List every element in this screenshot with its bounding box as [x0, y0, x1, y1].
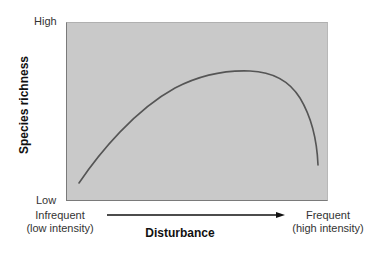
x-tick-right-line1: Frequent [286, 209, 370, 222]
y-axis-label: Species richness [17, 45, 31, 165]
x-tick-right: Frequent (high intensity) [286, 209, 370, 235]
x-axis-arrowhead-icon [276, 212, 285, 218]
x-tick-left: Infrequent (low intensity) [18, 209, 102, 235]
x-axis-label: Disturbance [130, 226, 230, 240]
x-tick-left-line2: (low intensity) [18, 222, 102, 235]
x-tick-right-line2: (high intensity) [286, 222, 370, 235]
y-tick-high: High [34, 15, 57, 27]
richness-curve [79, 71, 318, 183]
y-tick-low: Low [36, 194, 56, 206]
x-tick-left-line1: Infrequent [18, 209, 102, 222]
